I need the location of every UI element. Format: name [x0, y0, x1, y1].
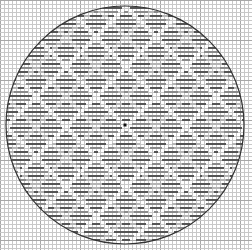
chart-canvas-stage: [0, 0, 252, 250]
circle-outline: [0, 0, 252, 250]
